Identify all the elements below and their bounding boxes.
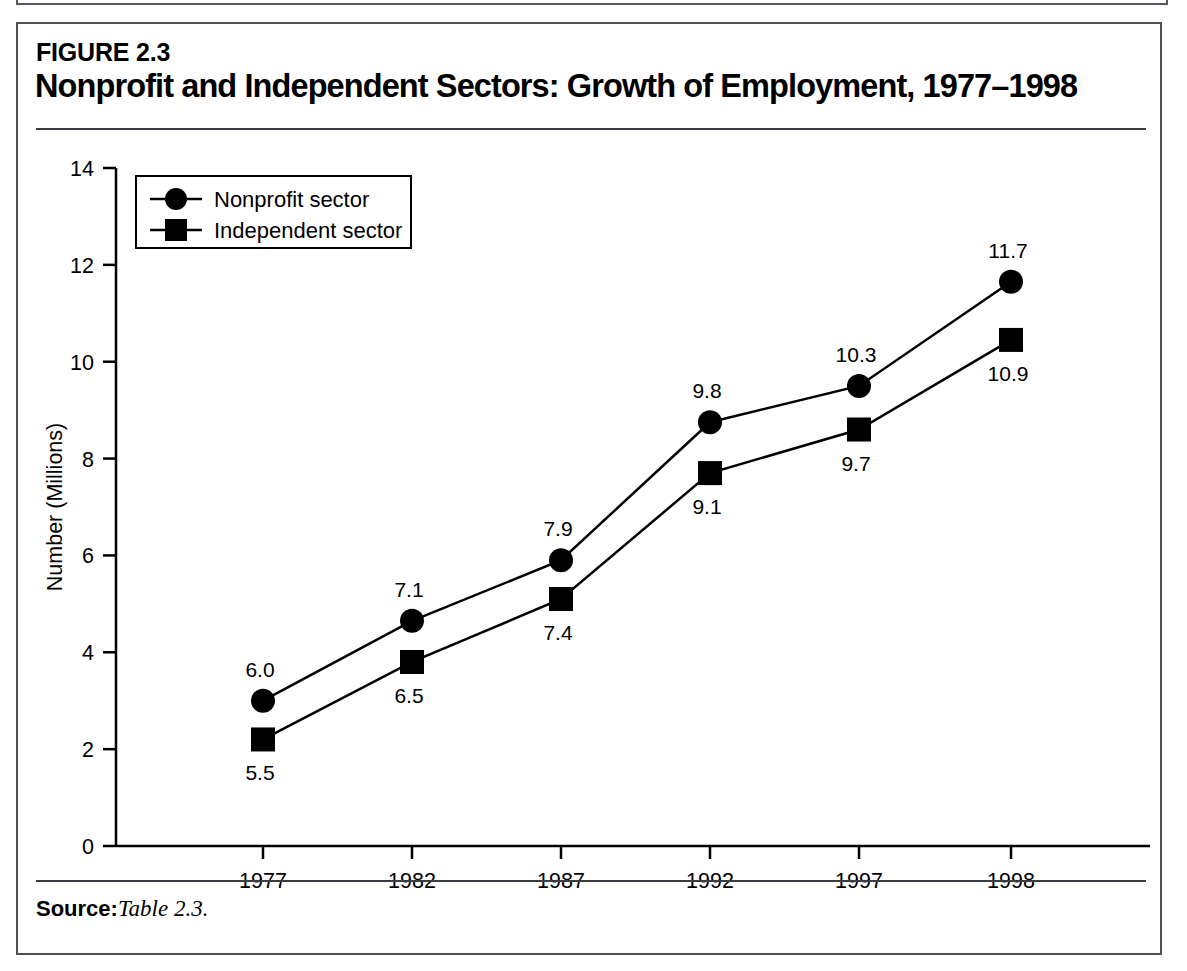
chart-series-layer — [251, 270, 1023, 752]
source-divider — [36, 880, 1146, 882]
data-point-circle-marker[interactable] — [251, 689, 275, 713]
legend-label-nonprofit: Nonprofit sector — [214, 187, 369, 212]
data-point-label: 6.5 — [394, 684, 423, 707]
y-tick-label: 6 — [82, 544, 94, 568]
data-point-label: 10.9 — [988, 362, 1029, 385]
y-tick-label: 4 — [82, 641, 94, 665]
figure-title: Nonprofit and Independent Sectors: Growt… — [35, 68, 1077, 105]
chart-plot-area: 02468101214 197719821987199219971998 Num… — [18, 128, 1164, 888]
x-tick-label: 1997 — [835, 869, 883, 888]
data-point-circle-marker[interactable] — [549, 548, 573, 572]
y-tick-label: 12 — [70, 254, 94, 278]
page-top-rule — [16, 0, 1168, 5]
data-point-label: 9.1 — [692, 495, 721, 518]
series-line — [263, 282, 1011, 701]
figure-container: FIGURE 2.3 Nonprofit and Independent Sec… — [16, 22, 1162, 955]
data-point-square-marker[interactable] — [698, 461, 722, 485]
y-axis-ticks: 02468101214 — [70, 157, 116, 859]
data-point-square-marker[interactable] — [251, 727, 275, 751]
x-tick-label: 1977 — [239, 869, 287, 888]
source-note: Source:Table 2.3. — [36, 896, 208, 922]
data-point-square-marker[interactable] — [549, 587, 573, 611]
data-point-circle-marker[interactable] — [999, 270, 1023, 294]
legend-label-independent: Independent sector — [214, 218, 402, 243]
data-point-label: 6.0 — [245, 658, 274, 681]
data-point-square-marker[interactable] — [999, 328, 1023, 352]
source-label: Source: — [36, 896, 118, 921]
data-point-label: 9.8 — [692, 379, 721, 402]
chart-legend: Nonprofit sector Independent sector — [136, 176, 411, 248]
data-point-label: 10.3 — [836, 343, 877, 366]
data-point-circle-marker[interactable] — [847, 374, 871, 398]
data-point-label: 7.4 — [543, 621, 573, 644]
chart-series-nonprofit — [251, 270, 1023, 713]
data-point-label: 9.7 — [841, 452, 870, 475]
y-tick-label: 2 — [82, 738, 94, 762]
chart-data-labels-layer: 6.07.17.99.810.311.75.56.57.49.19.710.9 — [245, 239, 1028, 785]
y-tick-label: 14 — [70, 157, 94, 181]
x-tick-label: 1982 — [388, 869, 436, 888]
x-tick-label: 1987 — [537, 869, 585, 888]
data-point-square-marker[interactable] — [847, 418, 871, 442]
data-point-label: 11.7 — [988, 239, 1027, 262]
square-marker-icon — [165, 219, 187, 241]
y-tick-label: 8 — [82, 448, 94, 472]
chart-series-independent — [251, 328, 1023, 752]
data-point-square-marker[interactable] — [400, 650, 424, 674]
data-point-label: 7.1 — [394, 578, 423, 601]
figure-number-label: FIGURE 2.3 — [36, 38, 170, 67]
data-point-label: 7.9 — [543, 517, 572, 540]
series-line — [263, 340, 1011, 740]
data-point-circle-marker[interactable] — [698, 410, 722, 434]
x-tick-label: 1998 — [987, 869, 1035, 888]
line-chart: 02468101214 197719821987199219971998 Num… — [18, 128, 1164, 888]
y-tick-label: 0 — [82, 835, 94, 859]
y-tick-label: 10 — [70, 351, 94, 375]
y-axis-title: Number (Millions) — [43, 423, 67, 591]
circle-marker-icon — [165, 188, 187, 210]
data-point-label: 5.5 — [245, 761, 274, 784]
x-tick-label: 1992 — [686, 869, 734, 888]
source-value: Table 2.3. — [118, 896, 209, 921]
data-point-circle-marker[interactable] — [400, 609, 424, 633]
